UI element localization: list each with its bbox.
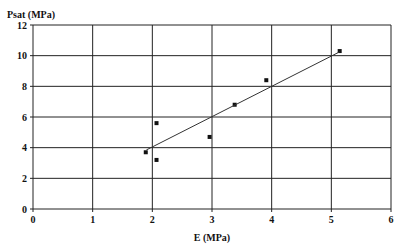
x-tick-label: 3	[210, 214, 215, 225]
data-point	[208, 135, 212, 139]
data-point	[155, 121, 159, 125]
y-tick-label: 8	[22, 81, 27, 92]
y-tick-label: 10	[17, 50, 27, 61]
x-axis-label: E (MPa)	[194, 232, 230, 244]
y-axis-label: Psat (MPa)	[7, 9, 55, 21]
x-tick-label: 0	[31, 214, 36, 225]
x-tick-label: 4	[269, 214, 274, 225]
x-tick-label: 5	[329, 214, 334, 225]
x-tick-label: 2	[150, 214, 155, 225]
data-series	[144, 49, 342, 162]
trend-line	[146, 52, 339, 150]
y-tick-label: 4	[22, 142, 27, 153]
x-tick-label: 6	[389, 214, 394, 225]
data-point	[155, 158, 159, 162]
scatter-chart: 0123456024681012 Psat (MPa) E (MPa)	[0, 0, 405, 248]
y-tick-label: 2	[22, 173, 27, 184]
tick-labels: 0123456024681012	[17, 20, 394, 226]
data-point	[144, 150, 148, 154]
x-tick-label: 1	[90, 214, 95, 225]
y-tick-label: 6	[22, 112, 27, 123]
y-tick-label: 12	[17, 20, 27, 31]
data-point	[264, 78, 268, 82]
y-tick-label: 0	[22, 204, 27, 215]
